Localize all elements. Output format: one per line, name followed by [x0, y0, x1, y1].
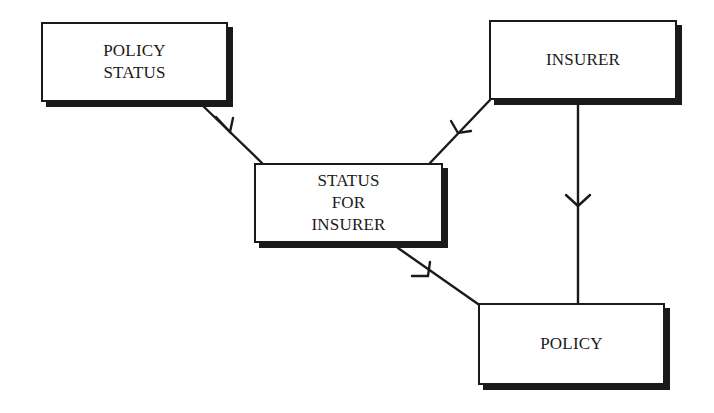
- entity-insurer[interactable]: INSURER: [489, 20, 677, 100]
- entity-label: INSURER: [546, 49, 620, 71]
- entity-status-for-insurer[interactable]: STATUS FOR INSURER: [254, 163, 443, 243]
- entity-label: STATUS FOR INSURER: [311, 170, 385, 236]
- relationship-policy-status-to-status-for-insurer: [201, 104, 262, 163]
- entity-label: POLICY STATUS: [103, 40, 166, 84]
- relationship-insurer-to-status-for-insurer: [430, 100, 490, 163]
- many-arrow-icon: [216, 117, 233, 132]
- er-diagram-canvas: POLICY STATUS INSURER STATUS FOR INSURER…: [0, 0, 714, 413]
- entity-label: POLICY: [540, 333, 603, 355]
- relationship-status-for-insurer-to-policy: [398, 248, 478, 304]
- entity-policy[interactable]: POLICY: [478, 303, 665, 385]
- relationship-insurer-to-policy: [566, 104, 590, 303]
- entity-policy-status[interactable]: POLICY STATUS: [41, 22, 228, 102]
